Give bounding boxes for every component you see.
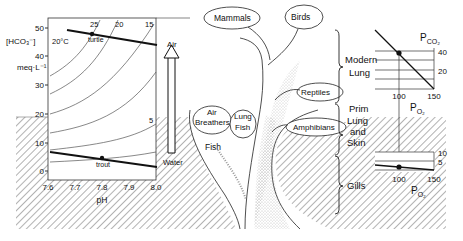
x-tick: 7.6 [42, 183, 54, 192]
reptiles-label: Reptiles [301, 88, 330, 97]
modern-lung-label-1: Modern [345, 54, 377, 65]
y-tick: 40 [438, 48, 447, 57]
trout-point [100, 156, 104, 160]
y-tick: 20 [438, 67, 447, 76]
turtle-label: turtle [88, 36, 104, 43]
x-tick: 150 [427, 175, 441, 184]
x-axis-label: pH [97, 195, 108, 205]
x-tick: 8.0 [150, 183, 162, 192]
prim-label-2: Lung [347, 115, 368, 126]
temperature-label: 20°C [52, 37, 69, 46]
gills-label: Gills [347, 180, 366, 191]
y-tick: 0 [40, 167, 45, 176]
y-axis-label-line1: [HCO₃⁻] [6, 37, 35, 46]
pco2-label: PCO₂ [420, 32, 440, 45]
prim-label-1: Prim [349, 103, 369, 114]
y-tick: 40 [35, 52, 44, 61]
air-breathers-label-2: Breathers [195, 118, 230, 127]
water-label: Water [163, 158, 183, 167]
mammals-label: Mammals [214, 13, 251, 23]
lung-fish-label-1: Lung [234, 112, 252, 121]
x-tick: 100 [392, 175, 406, 184]
svg-text:5: 5 [149, 116, 153, 125]
po2-label-top: PO₂ [410, 102, 425, 115]
trout-label: trout [96, 161, 110, 168]
svg-text:15: 15 [145, 20, 153, 29]
x-tick: 100 [392, 92, 406, 101]
modern-lung-label-2: Lung [349, 67, 370, 78]
air-label: Air [167, 40, 177, 49]
x-tick: 7.7 [69, 183, 81, 192]
y-tick: 50 [35, 24, 44, 33]
y-tick: 30 [35, 81, 44, 90]
prim-label-4: Skin [347, 137, 365, 148]
x-tick: 150 [427, 92, 441, 101]
svg-text:25: 25 [90, 20, 98, 29]
air-breathers-label-1: Air [207, 108, 217, 117]
y-tick: 10 [35, 139, 44, 148]
y-tick: 10 [438, 149, 447, 158]
y-axis-label-line2: meq·L⁻¹ [17, 63, 47, 72]
prim-label-3: and [350, 126, 366, 137]
svg-text:20: 20 [115, 20, 123, 29]
y-tick: 5 [438, 158, 443, 167]
x-tick: 7.8 [96, 183, 108, 192]
amphibians-label: Amphibians [293, 123, 335, 132]
birds-label: Birds [291, 12, 310, 22]
evolution-respiration-diagram: 0 10 20 30 40 50 7.6 7.7 7.8 7.9 8.0 pH … [0, 0, 463, 241]
fish-label: Fish [205, 142, 221, 152]
lung-fish-label-2: Fish [235, 123, 250, 132]
y-tick: 20 [35, 110, 44, 119]
x-tick: 7.9 [123, 183, 135, 192]
